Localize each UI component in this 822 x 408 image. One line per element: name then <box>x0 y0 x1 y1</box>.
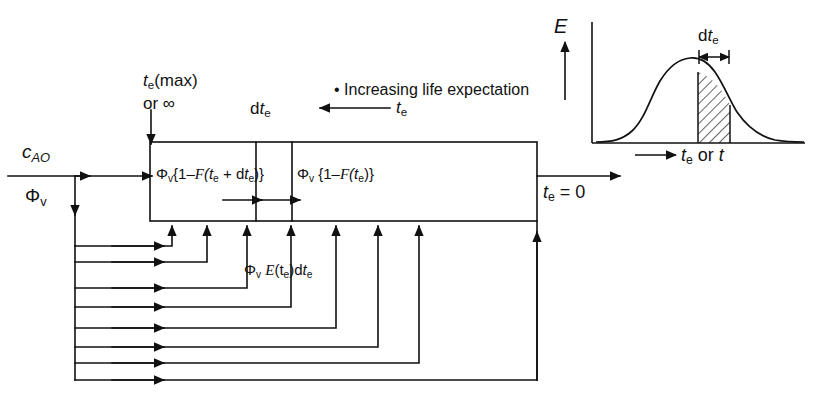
feedback-stream-expression: Φv E(te)dte <box>244 262 312 281</box>
direction-te-label: te <box>396 99 407 118</box>
feedback-riser-6 <box>112 226 378 347</box>
feedback-riser-1 <box>112 226 172 246</box>
feedback-riser-3 <box>112 226 247 288</box>
inlet-flow-label: Φv <box>25 186 47 208</box>
slice-width-label: dte <box>250 100 271 119</box>
top-entry-infinity-label: or ∞ <box>143 95 175 113</box>
exit-te-zero-label: te = 0 <box>543 183 585 204</box>
inset-x-axis-label: te or t <box>681 146 724 167</box>
feedback-riser-2 <box>112 226 207 262</box>
inset-y-axis-label: E <box>554 16 567 37</box>
left-cell-expression: Φv{1–F(te + dte)} <box>156 166 264 185</box>
inset-background <box>544 10 812 160</box>
inlet-concentration-label: cAO <box>22 142 50 164</box>
main-flow-network <box>8 108 620 380</box>
increasing-life-expectation-label: • Increasing life expectation <box>334 82 529 99</box>
inset-chart <box>544 10 812 160</box>
inset-strip-label: dte <box>698 27 719 46</box>
diagram-vector-layer <box>0 0 822 408</box>
right-cell-expression: Φv {1–F(te)} <box>297 166 374 185</box>
top-entry-max-label: te(max) <box>143 72 198 91</box>
diagram-canvas: cAO Φv te(max) or ∞ dte • Increasing lif… <box>0 0 822 408</box>
